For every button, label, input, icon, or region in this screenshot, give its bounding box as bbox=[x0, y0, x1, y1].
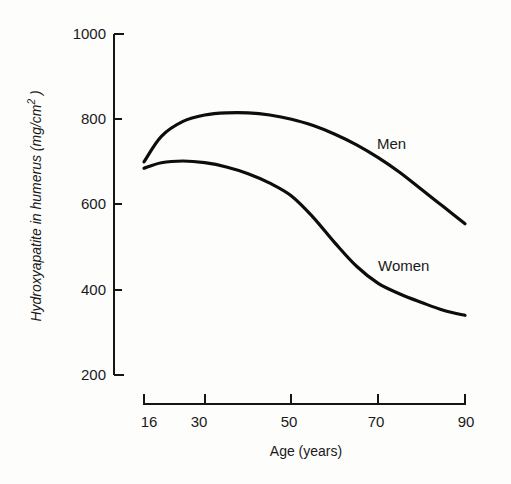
x-tick-50: 50 bbox=[281, 413, 298, 430]
y-tick-800: 800 bbox=[81, 110, 106, 127]
chart: 1000 800 600 400 200 Hydroxyapatite in h… bbox=[0, 0, 511, 484]
x-axis bbox=[144, 394, 466, 405]
x-tick-30: 30 bbox=[191, 413, 208, 430]
x-tick-90: 90 bbox=[458, 413, 475, 430]
y-axis-title: Hydroxyapatite in humerus (mg/cm2 ) bbox=[26, 90, 44, 321]
y-tick-1000: 1000 bbox=[73, 25, 106, 42]
y-axis bbox=[114, 34, 124, 375]
y-tick-600: 600 bbox=[81, 195, 106, 212]
x-tick-16: 16 bbox=[141, 413, 158, 430]
y-tick-200: 200 bbox=[81, 366, 106, 383]
y-tick-labels: 1000 800 600 400 200 bbox=[73, 25, 106, 383]
x-tick-labels: 16 30 50 70 90 bbox=[141, 413, 475, 430]
x-tick-70: 70 bbox=[368, 413, 385, 430]
series-label-women: Women bbox=[378, 257, 429, 274]
series-label-men: Men bbox=[377, 135, 406, 152]
y-tick-400: 400 bbox=[81, 281, 106, 298]
y-axis-title-close: ) bbox=[28, 90, 44, 99]
y-axis-title-main: Hydroxyapatite in humerus (mg/cm bbox=[28, 104, 44, 321]
plot-area bbox=[144, 113, 465, 316]
x-axis-title: Age (years) bbox=[270, 443, 342, 459]
